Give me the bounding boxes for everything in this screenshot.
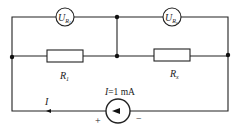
resistor-r1 bbox=[47, 50, 83, 62]
current-label: I bbox=[44, 96, 49, 107]
wire-bottom-left bbox=[12, 56, 106, 111]
source-minus-sign: − bbox=[136, 113, 142, 124]
junction-top-center bbox=[115, 15, 119, 19]
source-value-label: I=1 mA bbox=[104, 87, 135, 97]
circuit-diagram: UR1 URx R1 Rx I=1 mA I + − bbox=[0, 0, 233, 131]
voltmeter-r1-label: UR1 bbox=[58, 12, 71, 25]
junction-mid-center bbox=[115, 54, 119, 58]
resistor-r1-label: R1 bbox=[59, 70, 69, 82]
source-arrow-icon bbox=[112, 108, 120, 114]
junction-right bbox=[226, 53, 230, 57]
junction-left bbox=[10, 55, 14, 59]
wire-top-right bbox=[181, 17, 228, 56]
voltmeter-rx-label: URx bbox=[165, 12, 178, 25]
resistor-rx-label: Rx bbox=[169, 68, 179, 80]
source-plus-sign: + bbox=[95, 115, 101, 126]
wire-bottom-right bbox=[130, 56, 228, 111]
current-arrow-icon bbox=[46, 109, 51, 113]
resistor-rx bbox=[154, 49, 190, 61]
